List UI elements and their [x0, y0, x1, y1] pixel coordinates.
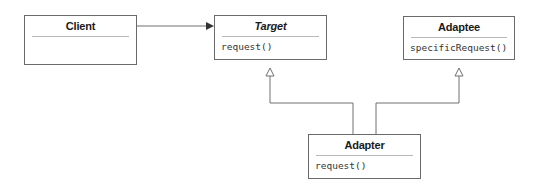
- hollow-triangle-icon: [455, 68, 463, 76]
- uml-diagram: Client Target request() Adaptee specific…: [0, 0, 537, 193]
- operation: request(): [221, 41, 272, 52]
- compartment-divider: [222, 36, 319, 37]
- class-client: Client: [24, 15, 137, 65]
- operation: request(): [315, 160, 366, 171]
- compartment-divider: [316, 155, 413, 156]
- operation: specificRequest(): [410, 42, 507, 53]
- class-name: Adapter: [309, 139, 420, 151]
- class-adaptee: Adaptee specificRequest(): [403, 16, 515, 60]
- class-name: Target: [215, 20, 326, 32]
- class-target: Target request(): [214, 15, 327, 60]
- class-name: Adaptee: [404, 21, 514, 33]
- class-name: Client: [25, 20, 136, 32]
- association-client-target: [137, 22, 214, 30]
- compartment-divider: [32, 36, 129, 37]
- generalization-adapter-target: [266, 68, 353, 134]
- generalization-adapter-adaptee: [376, 68, 463, 134]
- compartment-divider: [411, 37, 507, 38]
- filled-arrowhead-icon: [206, 22, 214, 30]
- hollow-triangle-icon: [266, 68, 274, 76]
- class-adapter: Adapter request(): [308, 134, 421, 179]
